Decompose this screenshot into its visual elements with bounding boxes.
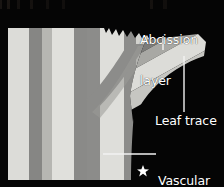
tissue-stripe-light-1 [8, 20, 29, 187]
abscission-zone-figure: Abcission layer Leaf trace Vascular tiss… [0, 0, 224, 187]
label-abcission-layer-line1: Abcission [140, 33, 198, 47]
tissue-stripe-light-2 [52, 20, 74, 187]
tissue-stripe-dark-1 [29, 20, 42, 187]
tissue-stripe-mid-1 [42, 20, 52, 187]
label-leaf-trace: Leaf trace [155, 114, 217, 128]
tissue-stripe-dark-2 [74, 20, 87, 187]
star-marker [137, 165, 149, 176]
label-vascular-tissue: Vascular tissue [158, 147, 210, 187]
label-abcission-layer: Abcission layer [140, 6, 198, 114]
label-abcission-layer-line2: layer [140, 74, 198, 88]
label-vascular-tissue-line1: Vascular [158, 174, 210, 187]
